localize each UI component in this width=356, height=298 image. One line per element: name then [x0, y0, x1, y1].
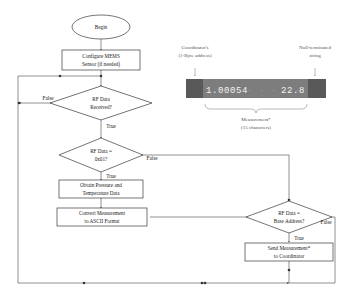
packet-string-tail: 22.8 [281, 86, 305, 96]
node-configure-line1: Configure MEMS [82, 53, 120, 59]
junction-received-false [18, 102, 21, 105]
node-begin[interactable]: Begin [72, 15, 130, 39]
packet-coordinator-byte [186, 79, 203, 98]
edge-label-is01-false: False [147, 155, 159, 161]
node-is01-line1: RF Data = [90, 148, 112, 154]
junction-bottom-right [204, 282, 207, 285]
edge-label-baseaddr-true: True [294, 235, 304, 241]
node-begin-label: Begin [95, 24, 108, 30]
packet-string-visible: 1.00054 [206, 86, 248, 96]
flowchart-canvas: Begin Configure MEMS Sensor (if needed) … [0, 0, 356, 298]
packet-caption-line2: (15 characters) [241, 125, 271, 130]
packet-caption-line1: Measurement* [241, 117, 271, 122]
packet-label-right-line1: Null-terminated [299, 45, 331, 50]
packet-label-left-line2: (1-Byte address) [178, 53, 212, 58]
flowchart-figure: Begin Configure MEMS Sensor (if needed) … [0, 0, 356, 298]
edge-label-baseaddr-false: False [321, 219, 333, 225]
junction-bottom-mid [83, 282, 86, 285]
edge-label-received-false: False [43, 95, 55, 101]
node-received-line2: Received? [90, 104, 112, 110]
node-rf-data-received[interactable]: RF Data Received? False True [43, 86, 152, 129]
node-convert-line1: Convert Measurement [79, 210, 126, 216]
node-baseaddr-line2: Base Address? [274, 218, 305, 224]
edge-label-received-true: True [106, 123, 116, 129]
node-configure-sensor[interactable]: Configure MEMS Sensor (if needed) [62, 50, 140, 70]
packet-measurement-brace [205, 104, 307, 113]
node-received-line1: RF Data [92, 96, 110, 102]
node-baseaddr-line1: RF Data = [278, 210, 300, 216]
node-obtain-line2: Temperature Data [82, 190, 120, 196]
junction-bottom-send [201, 282, 204, 285]
junction-send-out [288, 269, 291, 272]
packet-label-right-line2: string [309, 53, 321, 58]
node-is01-line2: 0x01? [95, 156, 108, 162]
node-convert-ascii[interactable]: Convert Measurement to ASCII Format [57, 208, 147, 226]
node-configure-line2: Sensor (if needed) [82, 61, 120, 68]
node-send-measurement[interactable]: Send Measurement* to Coordinator [245, 243, 333, 261]
packet-label-left-line1: Coordinator's [181, 45, 208, 50]
node-rf-data-is-01[interactable]: RF Data = 0x01? False True [59, 138, 158, 179]
node-obtain-line1: Obtain Pressure and [80, 182, 122, 188]
node-send-line2: to Coordinator [274, 253, 305, 259]
packet-diagram: Coordinator's (1-Byte address) Null-term… [178, 45, 331, 130]
edge-label-is01-true: True [106, 173, 116, 179]
packet-null-byte [308, 79, 326, 98]
node-obtain-data[interactable]: Obtain Pressure and Temperature Data [59, 180, 143, 198]
node-convert-line2: to ASCII Format [85, 218, 120, 224]
node-send-line1: Send Measurement* [268, 245, 311, 251]
